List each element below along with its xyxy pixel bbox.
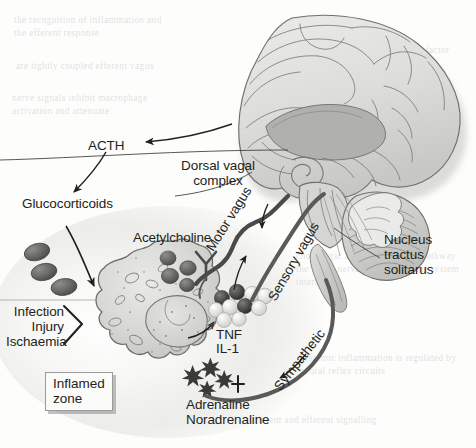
arrow-brain-to-acth: [146, 124, 232, 142]
inflamed-zone-box: Inflamed zone: [45, 372, 113, 411]
inflamed-zone-label: Inflamed zone: [53, 376, 105, 406]
figure-canvas: the recognition of inflammation and the …: [0, 0, 476, 448]
arrow-acth-to-glucocorticoids: [74, 152, 106, 192]
leader-dorsal-vagal-complex: [175, 172, 252, 196]
